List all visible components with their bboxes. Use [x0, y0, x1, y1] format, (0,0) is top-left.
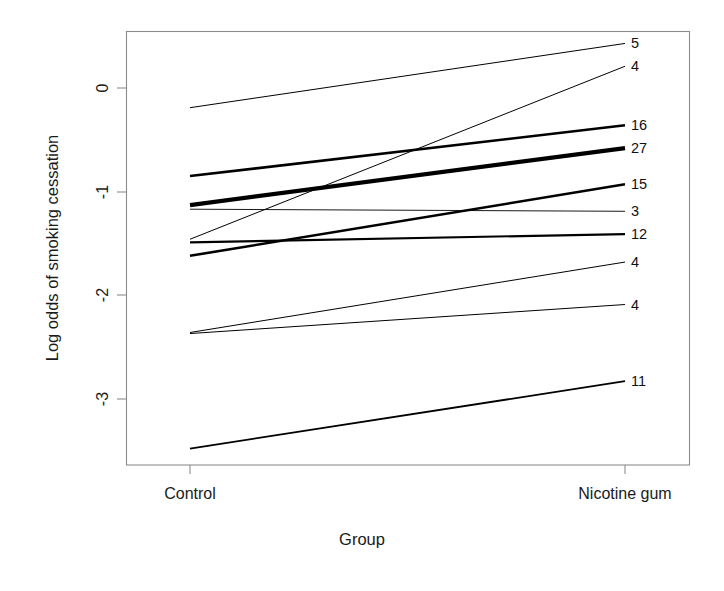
- x-axis-title: Group: [339, 530, 385, 548]
- series-line-12: [190, 234, 625, 242]
- y-tick-label-2: -2: [94, 288, 111, 302]
- series-label-layer: 541627153124411: [631, 35, 647, 389]
- series-label-15: 15: [631, 176, 647, 192]
- series-layer: [190, 43, 625, 448]
- series-label-27: 27: [631, 140, 647, 156]
- series-line-27: [190, 148, 625, 205]
- x-tick-label-nicotine-gum: Nicotine gum: [578, 485, 671, 502]
- series-label-3: 3: [631, 203, 639, 219]
- y-tick-label-0: 0: [94, 83, 111, 92]
- series-label-12: 12: [631, 226, 647, 242]
- series-line-4b: [190, 262, 625, 332]
- series-line-11: [190, 381, 625, 448]
- series-line-3: [190, 209, 625, 211]
- chart-figure: 0 -1 -2 -3 Log odds of smoking cessation…: [0, 0, 724, 591]
- series-line-5: [190, 43, 625, 107]
- series-line-4c: [190, 305, 625, 334]
- y-axis-tick-labels: 0 -1 -2 -3: [94, 83, 111, 406]
- series-label-11: 11: [631, 373, 646, 389]
- series-label-4b: 4: [631, 254, 639, 270]
- series-label-5: 5: [631, 35, 639, 51]
- series-label-4a: 4: [631, 58, 639, 74]
- series-label-16: 16: [631, 117, 647, 133]
- series-line-16: [190, 125, 625, 176]
- y-tick-label-1: -1: [94, 185, 111, 199]
- y-tick-label-3: -3: [94, 392, 111, 406]
- y-axis-title: Log odds of smoking cessation: [43, 135, 61, 362]
- plot-frame: [127, 32, 690, 466]
- series-line-4a: [190, 66, 625, 239]
- series-label-4c: 4: [631, 297, 639, 313]
- chart-svg: 0 -1 -2 -3 Log odds of smoking cessation…: [0, 0, 724, 591]
- x-axis-ticks: [190, 465, 625, 474]
- y-axis-ticks: [117, 88, 126, 399]
- x-tick-label-control: Control: [164, 485, 216, 502]
